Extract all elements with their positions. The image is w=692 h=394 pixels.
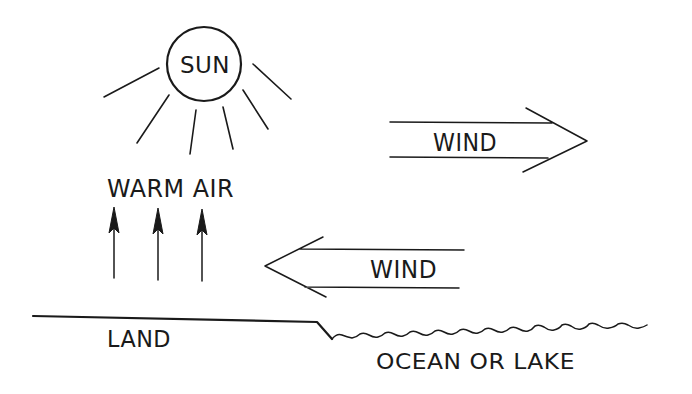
upper-wind-arrow: WIND xyxy=(390,108,587,172)
sun-ray xyxy=(243,90,268,129)
land-surface-line xyxy=(33,316,332,339)
warm-air: WARM AIR xyxy=(107,175,234,281)
sun-label: SUN xyxy=(180,52,230,78)
lower-wind-label: WIND xyxy=(370,256,437,284)
rising-air-arrow-up-icon xyxy=(109,207,119,278)
sun-ray xyxy=(104,68,159,97)
lower-wind-arrow: WIND xyxy=(265,237,464,297)
sun-ray xyxy=(253,64,291,99)
water: OCEAN OR LAKE xyxy=(332,323,647,374)
rising-air-arrow-up-icon xyxy=(197,209,207,281)
land-label: LAND xyxy=(107,326,171,352)
sun-ray xyxy=(190,110,196,154)
upper-wind-label: WIND xyxy=(433,129,497,157)
warm-air-label: WARM AIR xyxy=(107,175,234,203)
sun-ray xyxy=(137,95,169,143)
water-surface-wave xyxy=(332,323,647,339)
sun: SUN xyxy=(104,27,291,154)
water-label: OCEAN OR LAKE xyxy=(376,349,575,374)
sea-breeze-diagram: SUN WARM AIR WIND WIND xyxy=(0,0,692,394)
land: LAND xyxy=(33,316,332,352)
sun-ray xyxy=(223,107,233,149)
rising-air-arrow-up-icon xyxy=(153,208,163,280)
